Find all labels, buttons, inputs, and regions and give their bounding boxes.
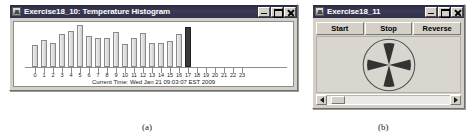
- tick-label: 2: [51, 72, 54, 78]
- histogram-tick: 3: [59, 68, 65, 74]
- histogram-bar: [167, 41, 173, 67]
- tick-label: 23: [239, 72, 245, 78]
- histogram-bar: [50, 43, 56, 67]
- window-title-histogram: Exercise18_10: Temperature Histogram: [24, 6, 258, 17]
- histogram-tick: 0: [32, 68, 38, 74]
- histogram-tick: 19: [203, 68, 209, 74]
- scrollbar-track[interactable]: [327, 95, 450, 105]
- histogram-bar: [113, 32, 119, 67]
- tick-label: 9: [114, 72, 117, 78]
- histogram-tick: 8: [104, 68, 110, 74]
- histogram-bar: [68, 31, 74, 67]
- titlebar-histogram[interactable]: Exercise18_10: Temperature Histogram: [10, 5, 297, 18]
- histogram-tick: 18: [194, 68, 200, 74]
- histogram-bars: [32, 23, 245, 67]
- fan-canvas-panel: [316, 36, 461, 93]
- stop-button[interactable]: Stop: [365, 22, 413, 35]
- window-controls-fan: [425, 7, 463, 17]
- histogram-tick: 15: [167, 68, 173, 74]
- histogram-tick: 21: [221, 68, 227, 74]
- histogram-bar: [149, 43, 155, 67]
- histogram-tick: 14: [158, 68, 164, 74]
- tick-label: 18: [194, 72, 200, 78]
- histogram-window[interactable]: Exercise18_10: Temperature Histogram 012…: [9, 4, 298, 91]
- tick-label: 7: [96, 72, 99, 78]
- histogram-bar: [77, 25, 83, 67]
- tick-label: 19: [203, 72, 209, 78]
- tick-label: 21: [221, 72, 227, 78]
- histogram-tick: 5: [77, 68, 83, 74]
- histogram-bar: [41, 40, 47, 68]
- tick-label: 8: [105, 72, 108, 78]
- histogram-client-area: 01234567891011121314151617181920212223 C…: [13, 21, 294, 87]
- tick-label: 16: [176, 72, 182, 78]
- tick-label: 13: [149, 72, 155, 78]
- fan-control-buttons: Start Stop Reverse: [316, 21, 461, 35]
- histogram-bar: [32, 45, 38, 67]
- window-controls-histogram: [258, 7, 296, 17]
- tick-label: 20: [212, 72, 218, 78]
- scrollbar-thumb[interactable]: [331, 96, 345, 104]
- histogram-tick: 16: [176, 68, 182, 74]
- figure-caption-b: (b): [378, 122, 389, 132]
- tick-label: 11: [131, 72, 137, 78]
- tick-label: 3: [60, 72, 63, 78]
- histogram-tick: 13: [149, 68, 155, 74]
- histogram-tick: 23: [239, 68, 245, 74]
- close-button[interactable]: [451, 7, 463, 17]
- tick-label: 5: [78, 72, 81, 78]
- titlebar-fan[interactable]: Exercise18_11: [313, 5, 464, 18]
- java-coffee-cup-icon: [12, 7, 21, 16]
- histogram-bar: [86, 36, 92, 67]
- java-coffee-cup-icon: [315, 7, 324, 16]
- fan-graphic: [361, 37, 417, 93]
- histogram-bar: [158, 43, 164, 67]
- tick-label: 22: [230, 72, 236, 78]
- reverse-button[interactable]: Reverse: [413, 22, 461, 35]
- histogram-bar: [131, 38, 137, 67]
- histogram-x-ticks: 01234567891011121314151617181920212223: [32, 68, 245, 74]
- fan-window[interactable]: Exercise18_11 Start Stop Reverse: [312, 4, 465, 109]
- histogram-tick: 10: [122, 68, 128, 74]
- histogram-chart: 01234567891011121314151617181920212223 C…: [14, 22, 293, 86]
- scroll-right-arrow-icon[interactable]: [450, 95, 461, 105]
- minimize-button[interactable]: [425, 7, 437, 17]
- histogram-tick: 20: [212, 68, 218, 74]
- histogram-tick: 7: [95, 68, 101, 74]
- figure-caption-a: (a): [142, 122, 152, 132]
- tick-label: 10: [122, 72, 128, 78]
- tick-label: 0: [33, 72, 36, 78]
- minimize-button[interactable]: [258, 7, 270, 17]
- fan-blades-icon: [361, 37, 417, 93]
- histogram-bar: [59, 34, 65, 67]
- histogram-tick: 22: [230, 68, 236, 74]
- histogram-tick: 2: [50, 68, 56, 74]
- histogram-bar: [140, 33, 146, 67]
- tick-label: 1: [42, 72, 45, 78]
- histogram-tick: 6: [86, 68, 92, 74]
- tick-label: 12: [140, 72, 146, 78]
- window-title-fan: Exercise18_11: [327, 6, 425, 17]
- tick-label: 14: [158, 72, 164, 78]
- maximize-button[interactable]: [271, 7, 283, 17]
- histogram-bar: [176, 34, 182, 67]
- histogram-tick: 1: [41, 68, 47, 74]
- fan-client-area: Start Stop Reverse: [316, 21, 461, 105]
- histogram-bar: [185, 27, 191, 67]
- histogram-tick: 9: [113, 68, 119, 74]
- scroll-left-arrow-icon[interactable]: [316, 95, 327, 105]
- histogram-tick: 17: [185, 68, 191, 74]
- tick-label: 15: [167, 72, 173, 78]
- close-button[interactable]: [284, 7, 296, 17]
- start-button[interactable]: Start: [316, 22, 364, 35]
- current-time-label: Current Time: Wed Jan 21 09:03:07 EST 20…: [14, 79, 293, 85]
- histogram-tick: 11: [131, 68, 137, 74]
- histogram-bar: [122, 44, 128, 67]
- maximize-button[interactable]: [438, 7, 450, 17]
- histogram-tick: 12: [140, 68, 146, 74]
- histogram-bar: [95, 38, 101, 67]
- histogram-tick: 4: [68, 68, 74, 74]
- horizontal-scrollbar[interactable]: [316, 94, 461, 105]
- tick-label: 4: [69, 72, 72, 78]
- tick-label: 6: [87, 72, 90, 78]
